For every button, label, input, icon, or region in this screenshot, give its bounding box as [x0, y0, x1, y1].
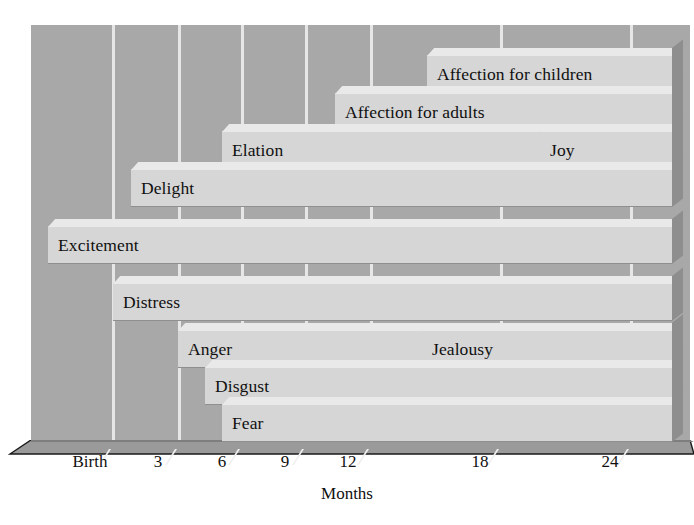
bar-top-bevel	[131, 162, 679, 170]
bar-delight[interactable]: Delight	[131, 169, 672, 207]
bar-side-face	[672, 153, 683, 207]
bar-top-bevel	[113, 276, 679, 284]
bar-side-face	[672, 210, 683, 264]
x-axis-title: Months	[321, 484, 373, 504]
bar-label: Delight	[141, 169, 194, 207]
bar-top-bevel	[222, 397, 679, 405]
x-tick-label-3: 9	[281, 452, 290, 472]
x-tick-label-1: 3	[154, 452, 163, 472]
bar-top-bevel	[48, 219, 679, 227]
bar-fear[interactable]: Fear	[222, 404, 672, 442]
bar-side-face	[672, 388, 683, 442]
bar-label: Excitement	[58, 226, 139, 264]
emotion-timeline-chart: Affection for childrenAffection for adul…	[0, 0, 694, 525]
bar-face	[113, 283, 672, 321]
bar-label: Distress	[123, 283, 180, 321]
bar-top-bevel	[205, 360, 679, 368]
bar-face	[48, 226, 672, 264]
bar-distress[interactable]: Distress	[113, 283, 672, 321]
bar-excitement[interactable]: Excitement	[48, 226, 672, 264]
bar-label: Fear	[232, 404, 264, 442]
x-tick-label-6: 24	[602, 452, 619, 472]
x-tick-label-2: 6	[218, 452, 227, 472]
bar-side-face	[672, 267, 683, 321]
bar-face	[131, 169, 672, 207]
x-tick-label-0: Birth	[73, 452, 108, 472]
x-tick-label-4: 12	[340, 452, 357, 472]
x-tick-label-5: 18	[472, 452, 489, 472]
bar-face	[222, 404, 672, 442]
